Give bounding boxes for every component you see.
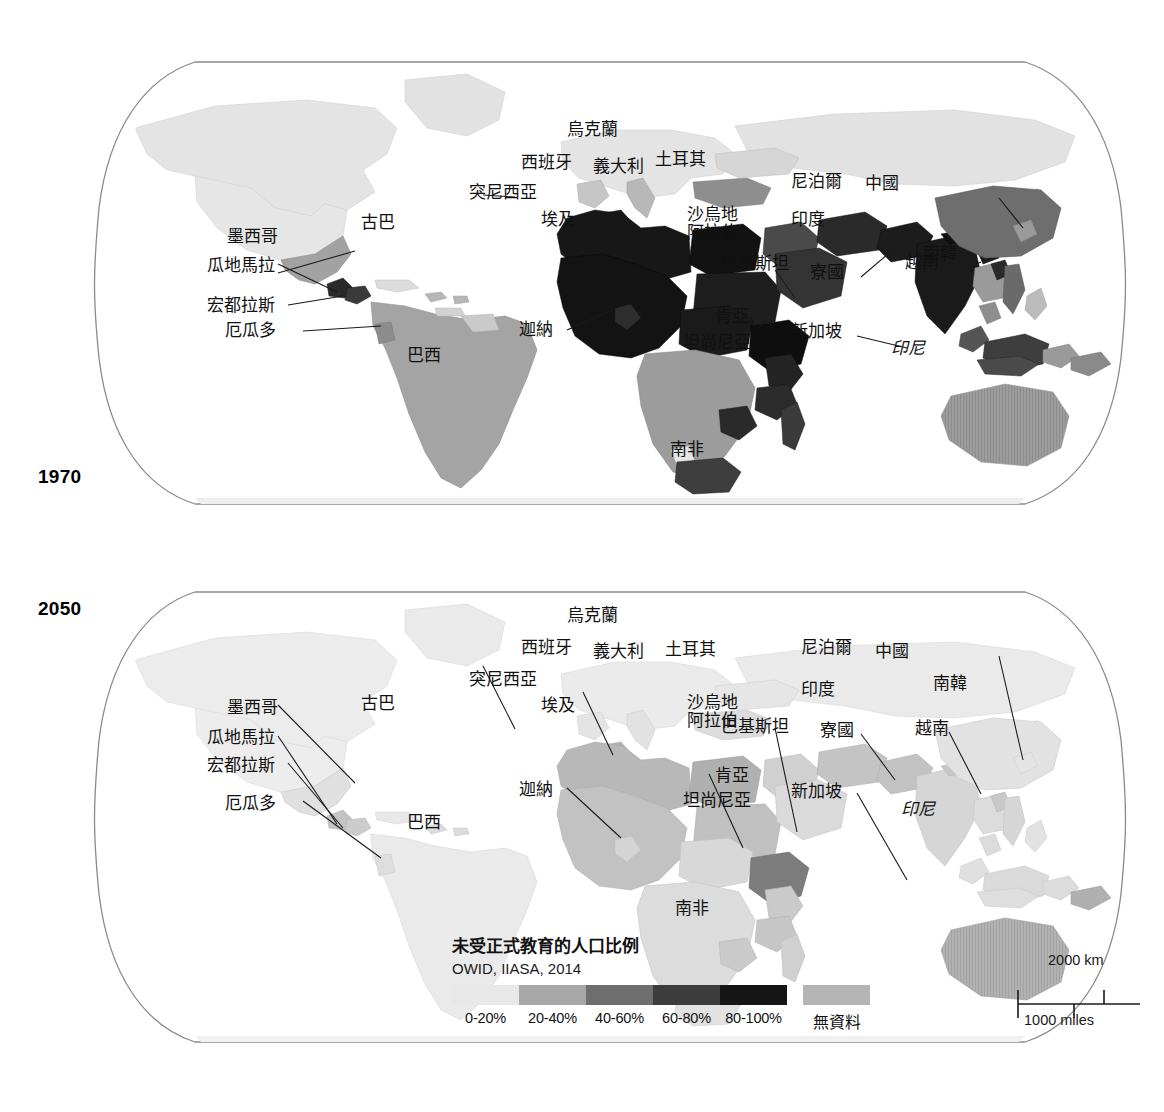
map-label-guatemala-1970: 瓜地馬拉 (207, 256, 275, 274)
map-label-india-2050: 印度 (801, 680, 835, 698)
legend-bin-2: 40-60% (586, 985, 653, 1026)
map-label-kenya-2050: 肯亞 (715, 766, 749, 784)
map-label-singapore-1970: 新加坡 (791, 322, 842, 340)
map-label-south-africa-1970: 南非 (670, 440, 704, 458)
map-label-mexico-1970: 墨西哥 (227, 227, 278, 245)
legend-label-80-100: 80-100% (720, 1005, 787, 1026)
map-label-ghana-2050: 迦納 (519, 780, 553, 798)
legend-label-nodata: 無資料 (803, 1005, 870, 1033)
map-label-italy-2050: 義大利 (593, 642, 644, 660)
map-label-brazil-1970: 巴西 (407, 346, 441, 364)
map-label-ghana-1970: 迦納 (519, 320, 553, 338)
legend-bin-4: 80-100% (720, 985, 787, 1026)
map-label-guatemala-2050: 瓜地馬拉 (207, 728, 275, 746)
map-label-saudi-arabia-1970: 沙烏地 阿拉伯 (687, 206, 738, 242)
map-label-brazil-2050: 巴西 (407, 813, 441, 831)
map-label-singapore-2050: 新加坡 (791, 782, 842, 800)
map-label-india-1970: 印度 (791, 210, 825, 228)
legend-bin-1: 20-40% (519, 985, 586, 1026)
legend-swatch-80-100 (720, 985, 787, 1005)
figure-canvas: 墨西哥 古巴 瓜地馬拉 宏都拉斯 厄瓜多 巴西 烏克蘭 西班牙 義大利 土耳其 … (0, 0, 1164, 1112)
legend-source: OWID, IIASA, 2014 (452, 960, 922, 977)
legend-label-0-20: 0-20% (452, 1005, 519, 1026)
legend-bin-0: 0-20% (452, 985, 519, 1026)
map-label-nepal-2050: 尼泊爾 (801, 638, 852, 656)
scale-bar: 2000 km 1000 miles (1008, 952, 1148, 1032)
scale-bar-km-label: 2000 km (1048, 952, 1104, 968)
legend-label-60-80: 60-80% (653, 1005, 720, 1026)
map-label-egypt-2050: 埃及 (541, 696, 575, 714)
map-label-turkey-2050: 土耳其 (665, 640, 716, 658)
map-label-vietnam-1970: 越南 (905, 253, 939, 271)
map-label-egypt-1970: 埃及 (541, 210, 575, 228)
map-label-south-africa-2050: 南非 (675, 899, 709, 917)
map-label-indonesia-2050: 印尼 (901, 800, 935, 818)
map-label-ukraine-1970: 烏克蘭 (567, 120, 618, 138)
map-label-tunisia-2050: 突尼西亞 (469, 670, 537, 688)
map-label-china-1970: 中國 (865, 174, 899, 192)
legend-label-20-40: 20-40% (519, 1005, 586, 1026)
clipped-header-strip (290, 0, 890, 5)
map-label-pakistan-2050: 巴基斯坦 (721, 717, 789, 735)
map-label-kenya-1970: 肯亞 (715, 307, 749, 325)
map-label-laos-1970: 寮國 (810, 263, 844, 281)
legend-swatch-40-60 (586, 985, 653, 1005)
map-label-china-2050: 中國 (875, 642, 909, 660)
map-label-spain-2050: 西班牙 (521, 638, 572, 656)
map-label-tunisia-1970: 突尼西亞 (469, 183, 537, 201)
legend-bin-nodata: 無資料 (803, 985, 870, 1033)
legend-swatch-20-40 (519, 985, 586, 1005)
map-label-indonesia-1970: 印尼 (891, 339, 925, 357)
map-label-cuba-2050: 古巴 (361, 694, 395, 712)
map-label-honduras-1970: 宏都拉斯 (207, 296, 275, 314)
map-label-ecuador-2050: 厄瓜多 (225, 794, 276, 812)
scale-bar-miles-label: 1000 miles (1024, 1012, 1094, 1028)
legend: 未受正式教育的人口比例 OWID, IIASA, 2014 0-20% 20-4… (452, 932, 922, 1033)
map-label-tanzania-1970: 坦尚尼亞 (683, 333, 751, 351)
map-label-mexico-2050: 墨西哥 (227, 698, 278, 716)
map-panel-1970: 墨西哥 古巴 瓜地馬拉 宏都拉斯 厄瓜多 巴西 烏克蘭 西班牙 義大利 土耳其 … (75, 58, 1145, 508)
map-label-turkey-1970: 土耳其 (655, 150, 706, 168)
map-label-spain-1970: 西班牙 (521, 153, 572, 171)
legend-label-40-60: 40-60% (586, 1005, 653, 1026)
year-label-1970: 1970 (38, 466, 81, 488)
legend-swatch-nodata (803, 985, 870, 1005)
legend-bin-3: 60-80% (653, 985, 720, 1026)
map-label-pakistan-1970: 巴基斯坦 (721, 254, 789, 272)
map-label-saudi-line2: 阿拉伯 (687, 224, 738, 242)
map-label-south-korea-2050: 南韓 (933, 674, 967, 692)
legend-swatch-60-80 (653, 985, 720, 1005)
map-label-ecuador-1970: 厄瓜多 (225, 321, 276, 339)
legend-title: 未受正式教育的人口比例 (452, 932, 922, 957)
map-label-tanzania-2050: 坦尚尼亞 (683, 791, 751, 809)
map-label-vietnam-2050: 越南 (915, 719, 949, 737)
map-label-italy-1970: 義大利 (593, 157, 644, 175)
legend-swatch-row: 0-20% 20-40% 40-60% 60-80% 80-100% (452, 985, 922, 1033)
map-label-laos-2050: 寮國 (820, 721, 854, 739)
legend-bin-group: 0-20% 20-40% 40-60% 60-80% 80-100% (452, 985, 787, 1026)
map-label-nepal-1970: 尼泊爾 (791, 172, 842, 190)
year-label-2050: 2050 (38, 598, 81, 620)
map-label-cuba-1970: 古巴 (361, 213, 395, 231)
map-label-ukraine-2050: 烏克蘭 (567, 606, 618, 624)
legend-swatch-0-20 (452, 985, 519, 1005)
map-label-honduras-2050: 宏都拉斯 (207, 756, 275, 774)
